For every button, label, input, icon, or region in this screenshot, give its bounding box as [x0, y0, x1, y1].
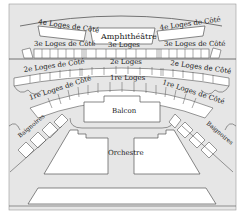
label-loges2-center: 2e Loges: [110, 58, 142, 66]
label-loges3-center: 3e Loges: [108, 41, 140, 49]
label-loges3-right: 3e Loges de Côté: [164, 40, 226, 48]
orchestre-front-block: [28, 188, 216, 204]
label-balcon: Balcon: [112, 107, 137, 115]
label-loges1-center: 1re Loges: [110, 74, 146, 82]
label-orchestre: Orchestre: [108, 149, 144, 157]
label-amphitheatre: Amphithéâtre: [100, 32, 157, 41]
loges3-row: [22, 48, 221, 58]
theater-seating-diagram: 4e Loges de Côté 4e Loges de Côté Amphit…: [0, 0, 243, 216]
label-loges3-left: 3e Loges de Côté: [34, 40, 96, 48]
